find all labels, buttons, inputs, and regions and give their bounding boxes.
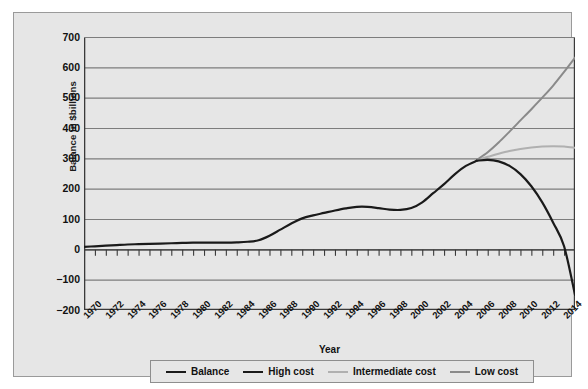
y-tick-label: 400	[40, 123, 80, 134]
x-axis-title: Year	[84, 344, 575, 355]
y-tick-label: 100	[40, 214, 80, 225]
y-tick-label: 500	[40, 92, 80, 103]
y-tick-label: 700	[40, 32, 80, 43]
legend-label: Low cost	[475, 366, 518, 377]
chart-panel: Balance in $billions 7006005004003002001…	[13, 12, 572, 377]
y-tick-label: −200	[40, 305, 80, 316]
plot-area	[84, 37, 575, 310]
legend-item[interactable]: Low cost	[450, 366, 518, 377]
legend-item[interactable]: Balance	[166, 366, 229, 377]
legend-label: Intermediate cost	[353, 366, 436, 377]
chart-screenshot: Balance in $billions 7006005004003002001…	[0, 0, 588, 389]
y-tick-label: 600	[40, 62, 80, 73]
legend-label: Balance	[191, 366, 229, 377]
legend-item[interactable]: Intermediate cost	[328, 366, 436, 377]
series-line-high-cost	[477, 160, 575, 295]
legend-line-swatch	[166, 371, 186, 373]
series-layer	[84, 37, 575, 310]
series-line-low-cost	[477, 58, 575, 160]
legend-line-swatch	[328, 371, 348, 373]
legend-line-swatch	[243, 371, 263, 373]
y-tick-label: 300	[40, 153, 80, 164]
x-axis-tick-labels: 1970197219741976197819801982198419861988…	[84, 310, 575, 344]
y-tick-label: −100	[40, 274, 80, 285]
y-axis-tick-labels: 7006005004003002001000−100−200	[38, 37, 80, 310]
legend-item[interactable]: High cost	[243, 366, 314, 377]
legend-line-swatch	[450, 371, 470, 373]
legend-label: High cost	[268, 366, 314, 377]
y-tick-label: 0	[40, 244, 80, 255]
chart-legend: BalanceHigh costIntermediate costLow cos…	[150, 360, 534, 383]
y-tick-label: 200	[40, 183, 80, 194]
series-line-balance	[84, 161, 477, 247]
